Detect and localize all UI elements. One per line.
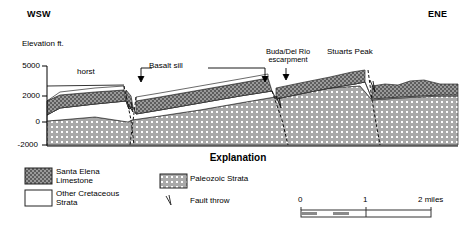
legend-label-santa-elena-limestone: Santa Elena Limestone (56, 168, 100, 186)
scale-bar (301, 207, 431, 217)
axis-tick-5000: 5000 (6, 61, 40, 70)
axis-tick-0: 0 (6, 117, 40, 126)
legend-label-paleozoic-strata: Paleozoic Strata (190, 175, 248, 184)
annotation-buda-del-rio-escarpment: Buda/Del Rio escarpment (252, 48, 324, 65)
explanation-title: Explanation (0, 152, 476, 163)
scalebar-tick-2: 2 miles (418, 196, 443, 205)
basalt-sill-horizon (47, 85, 124, 86)
annotation-stuarts-peak: Stuarts Peak (327, 48, 373, 57)
annotation-horst: horst (77, 68, 95, 77)
legend-label-fault-throw: Fault throw (190, 197, 230, 206)
elevation-axis-label: Elevation ft. (22, 40, 64, 49)
axis-tick-minus2000: -2000 (4, 140, 38, 149)
annotation-basalt-sill: Basalt sill (149, 62, 183, 71)
orientation-label-wsw: WSW (27, 9, 51, 19)
scalebar-tick-0: 0 (298, 196, 302, 205)
axis-tick-2000: 2000 (6, 91, 40, 100)
scalebar-tick-1: 1 (363, 196, 367, 205)
cross-section-figure: WSW ENE Elevation ft. 5000 2000 0 -2000 … (0, 0, 476, 229)
orientation-label-ene: ENE (428, 9, 447, 19)
legend-label-other-cretaceous-strata: Other Cretaceous Strata (56, 190, 119, 208)
